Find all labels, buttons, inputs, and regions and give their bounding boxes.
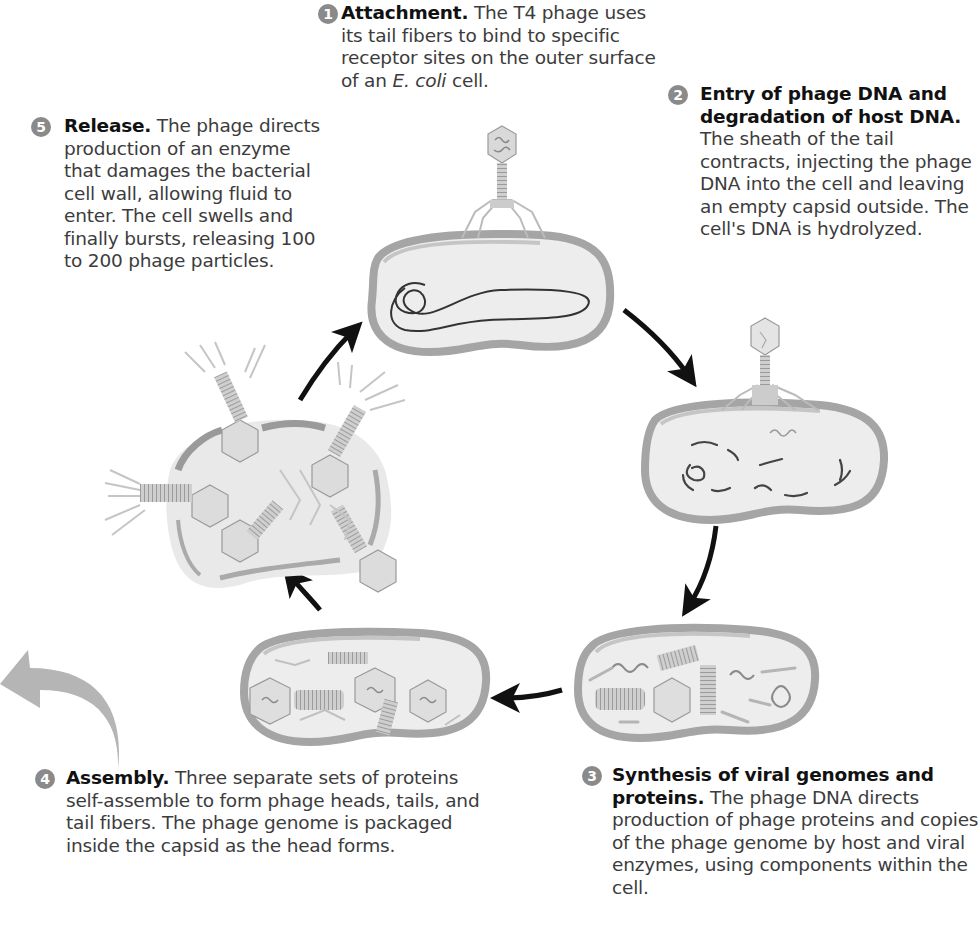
step5-illustration	[105, 342, 405, 592]
arrow-step2-to-step3-icon	[690, 526, 716, 604]
step1-title: Attachment.	[341, 2, 468, 23]
step2-caption: Entry of phage DNA and degradation of ho…	[700, 83, 980, 241]
step5-text: The phage directs production of an enzym…	[64, 115, 320, 271]
step2-illustration	[645, 318, 884, 520]
step3-caption: Synthesis of viral genomes and proteins.…	[612, 764, 980, 899]
big-curved-arrow-icon	[0, 650, 119, 770]
step4-title: Assembly.	[66, 767, 169, 788]
step2-text: The sheath of the tail contracts, inject…	[700, 128, 972, 239]
step5-caption: Release. The phage directs production of…	[64, 115, 326, 273]
step4-number-badge: 4	[35, 769, 55, 789]
step5-title: Release.	[64, 115, 151, 136]
step1-illustration	[371, 126, 610, 352]
arrow-step5-to-step1-icon	[300, 332, 352, 400]
step1-text-b: cell.	[446, 70, 488, 91]
step3-illustration	[578, 628, 815, 738]
step4-caption: Assembly. Three separate sets of protein…	[66, 767, 486, 857]
step1-caption: Attachment. The T4 phage uses its tail f…	[341, 2, 671, 92]
step2-number-badge: 2	[668, 85, 688, 105]
arrow-step4-to-step5-icon	[292, 578, 320, 610]
step1-number-badge: 1	[318, 4, 338, 24]
step1-italic: E. coli	[392, 70, 446, 91]
step4-illustration	[244, 632, 486, 742]
step5-number-badge: 5	[31, 117, 51, 137]
step2-title: Entry of phage DNA and degradation of ho…	[700, 83, 961, 127]
arrow-step3-to-step4-icon	[505, 690, 562, 698]
arrow-step1-to-step2-icon	[624, 310, 688, 375]
step3-number-badge: 3	[582, 766, 602, 786]
